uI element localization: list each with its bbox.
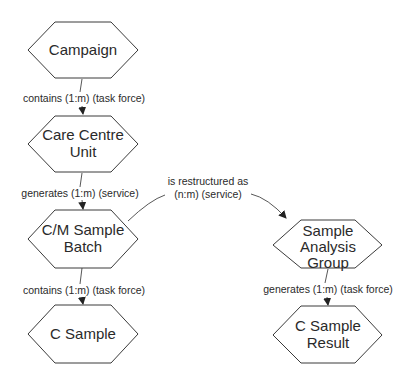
- node-label: C Sample: [295, 317, 361, 334]
- node-label: Care Centre: [42, 126, 124, 143]
- edge-label: generates (1:m) (task force): [263, 283, 393, 295]
- node-campaign[interactable]: Campaign: [28, 22, 138, 78]
- edge-label: generates (1:m) (service): [21, 187, 138, 199]
- edge-campaign-to-care-centre-unit: contains (1:m) (task force): [23, 79, 145, 114]
- node-label: Result: [307, 334, 350, 351]
- edge-sample-analysis-group-to-result: generates (1:m) (task force): [263, 269, 393, 305]
- node-c-sample[interactable]: C Sample: [28, 305, 138, 363]
- node-label: C/M Sample: [42, 221, 125, 238]
- edge-batch-to-c-sample: contains (1:m) (task force): [23, 268, 145, 304]
- edge-care-centre-unit-to-batch: generates (1:m) (service): [21, 173, 138, 209]
- node-label: Campaign: [49, 41, 117, 58]
- diagram-canvas: contains (1:m) (task force) generates (1…: [0, 0, 404, 380]
- node-label: Analysis: [300, 238, 356, 255]
- node-label: Unit: [70, 143, 98, 160]
- node-care-centre-unit[interactable]: Care Centre Unit: [28, 116, 138, 172]
- edge-label: contains (1:m) (task force): [23, 284, 145, 296]
- node-label: Sample: [303, 222, 354, 239]
- node-c-sample-result[interactable]: C Sample Result: [273, 306, 382, 363]
- edge-batch-to-sample-analysis-group: is restructured as (n:m) (service): [128, 175, 286, 221]
- node-label: Group: [307, 254, 349, 271]
- node-label: C Sample: [50, 325, 116, 342]
- node-cm-sample-batch[interactable]: C/M Sample Batch: [28, 210, 138, 268]
- edge-label: (n:m) (service): [174, 188, 242, 200]
- node-sample-analysis-group[interactable]: Sample Analysis Group: [273, 220, 382, 271]
- node-label: Batch: [64, 238, 102, 255]
- edge-label: is restructured as: [168, 175, 249, 187]
- edge-label: contains (1:m) (task force): [23, 92, 145, 104]
